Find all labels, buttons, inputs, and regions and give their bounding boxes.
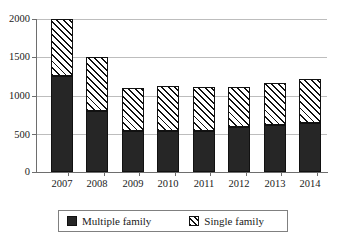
legend-solid-black-swatch-icon [67, 216, 77, 226]
bar-segment-single-family [86, 57, 108, 111]
x-tick-mark-1 [104, 172, 105, 176]
bar-segment-multiple-family [157, 131, 179, 172]
bar-segment-single-family [264, 83, 286, 125]
x-tick-mark-2 [139, 172, 140, 176]
x-tick-label-2012: 2012 [219, 178, 259, 190]
bar-segment-multiple-family [228, 127, 250, 172]
chart-legend: Multiple family Single family [58, 210, 288, 232]
bar-segment-single-family [51, 19, 73, 76]
x-tick-label-2010: 2010 [148, 178, 188, 190]
x-tick-mark-0 [68, 172, 69, 176]
y-tick-label-1500: 1500 [9, 52, 30, 62]
legend-item-single-family[interactable]: Single family [189, 216, 264, 227]
bar-segment-multiple-family [299, 123, 321, 172]
stacked-bar-chart: 2000 1500 1000 500 0 [0, 0, 345, 242]
bar-segment-single-family [299, 79, 321, 123]
legend-item-multiple-family[interactable]: Multiple family [67, 216, 151, 227]
bar-segment-single-family [193, 87, 215, 131]
x-tick-label-2009: 2009 [113, 178, 153, 190]
y-tick-label-1000: 1000 [9, 91, 30, 101]
x-tick-label-2013: 2013 [255, 178, 295, 190]
legend-label-single-family: Single family [204, 216, 264, 227]
x-tick-label-2011: 2011 [184, 178, 224, 190]
bar-segment-single-family [228, 87, 250, 127]
y-axis-tick-labels: 2000 1500 1000 500 0 [0, 0, 30, 242]
bar-segment-multiple-family [51, 76, 73, 172]
bar-segment-multiple-family [264, 125, 286, 172]
legend-label-multiple-family: Multiple family [82, 216, 151, 227]
x-tick-mark-3 [175, 172, 176, 176]
x-tick-mark-6 [281, 172, 282, 176]
x-tick-mark-5 [246, 172, 247, 176]
y-tick-label-2000: 2000 [9, 14, 30, 24]
bar-segment-single-family [157, 86, 179, 131]
x-tick-label-2014: 2014 [290, 178, 330, 190]
y-tick-label-0: 0 [25, 167, 30, 177]
legend-hatched-swatch-icon [189, 216, 199, 226]
y-tick-label-500: 500 [14, 130, 30, 140]
x-tick-label-2008: 2008 [77, 178, 117, 190]
x-axis-line [36, 172, 328, 173]
x-tick-mark-4 [210, 172, 211, 176]
bar-series-container [36, 19, 328, 172]
bar-segment-single-family [122, 88, 144, 131]
x-tick-label-2007: 2007 [42, 178, 82, 190]
x-tick-mark-7 [317, 172, 318, 176]
bar-segment-multiple-family [122, 131, 144, 172]
bar-segment-multiple-family [86, 111, 108, 172]
bar-segment-multiple-family [193, 131, 215, 172]
